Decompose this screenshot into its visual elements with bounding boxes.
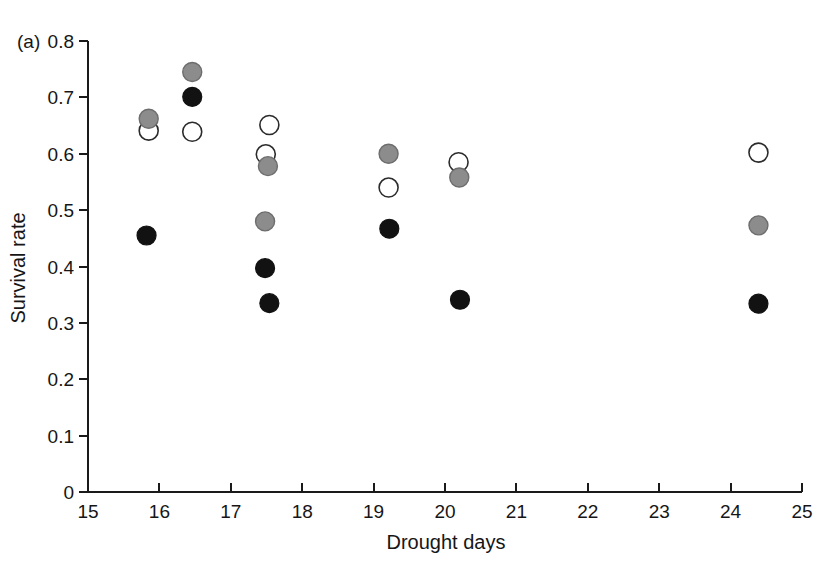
axis-spines [88,41,802,492]
y-tick-label: 0.1 [48,426,74,447]
data-point-gray-filled [183,63,202,82]
y-tick-label: 0.7 [48,87,74,108]
y-axis-title: Survival rate [7,212,29,323]
series-black-filled [137,87,768,313]
x-tick-label: 24 [720,501,742,522]
data-point-gray-filled [258,157,277,176]
x-tick-label: 16 [149,501,170,522]
figure-panel-a: 1516171819202122232425 00.10.20.30.40.50… [0,0,836,566]
data-point-black-filled [380,219,399,238]
data-point-black-filled [260,294,279,313]
panel-label: (a) [17,31,40,52]
x-tick-label: 23 [649,501,670,522]
data-point-black-filled [256,259,275,278]
data-point-gray-filled [139,109,158,128]
data-point-black-filled [137,226,156,245]
y-tick-label: 0.6 [48,144,74,165]
data-point-black-filled [749,294,768,313]
data-point-open [260,116,279,135]
data-point-gray-filled [379,144,398,163]
y-tick-label: 0.3 [48,313,74,334]
x-tick-label: 18 [292,501,313,522]
data-point-open [749,143,768,162]
x-tick-label: 21 [506,501,527,522]
x-tick-label: 15 [77,501,98,522]
y-tick-label: 0.8 [48,31,74,52]
series-gray-filled [139,63,768,235]
y-tick-label: 0.2 [48,369,74,390]
y-tick-label: 0 [63,482,74,503]
data-point-gray-filled [749,216,768,235]
data-point-gray-filled [256,212,275,231]
axes-group [88,41,802,492]
x-tick-label: 17 [220,501,241,522]
y-tick-labels: 00.10.20.30.40.50.60.70.8 [48,31,75,503]
y-tick-label: 0.5 [48,200,74,221]
x-axis-title: Drought days [387,531,506,553]
data-point-black-filled [450,290,469,309]
x-tick-label: 20 [434,501,455,522]
data-point-open [379,178,398,197]
tick-marks-group [79,41,802,492]
data-point-open [183,122,202,141]
x-tick-labels: 1516171819202122232425 [77,501,812,522]
y-tick-label: 0.4 [48,257,75,278]
x-tick-label: 19 [363,501,384,522]
data-points-group [137,63,768,314]
x-tick-label: 25 [791,501,812,522]
x-tick-label: 22 [577,501,598,522]
data-point-black-filled [183,87,202,106]
data-point-gray-filled [450,168,469,187]
scatter-plot: 1516171819202122232425 00.10.20.30.40.50… [0,0,836,566]
